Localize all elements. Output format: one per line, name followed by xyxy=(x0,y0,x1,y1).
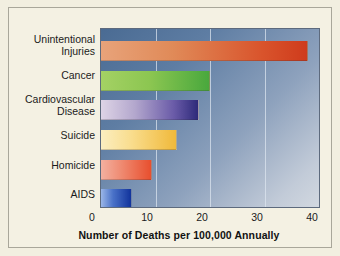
xtick-0: 0 xyxy=(72,211,112,223)
bar-cancer xyxy=(101,71,210,91)
category-label-aids: AIDS xyxy=(0,189,95,201)
bar-aids xyxy=(101,189,132,208)
chart-figure: Unintentional Injuries Cancer Cardiovasc… xyxy=(0,0,340,256)
bar-homicide xyxy=(101,160,152,180)
category-label-cardiovascular-disease: Cardiovascular Disease xyxy=(0,94,95,117)
category-label-homicide: Homicide xyxy=(0,160,95,172)
category-label-cancer: Cancer xyxy=(0,70,95,82)
xtick-20: 20 xyxy=(182,211,222,223)
figure-frame: Unintentional Injuries Cancer Cardiovasc… xyxy=(8,7,332,248)
bar-suicide xyxy=(101,130,177,150)
category-label-unintentional-injuries: Unintentional Injuries xyxy=(0,34,95,57)
category-label-suicide: Suicide xyxy=(0,130,95,142)
bar-unintentional-injuries xyxy=(101,41,308,61)
x-axis-title: Number of Deaths per 100,000 Annually xyxy=(9,229,340,241)
plot-area xyxy=(100,28,320,208)
bar-cardiovascular-disease xyxy=(101,100,199,120)
xtick-40: 40 xyxy=(292,211,332,223)
xtick-10: 10 xyxy=(127,211,167,223)
xtick-30: 30 xyxy=(237,211,277,223)
